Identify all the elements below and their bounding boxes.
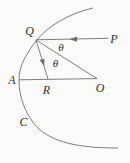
point-label-A: A xyxy=(8,74,15,86)
diagram-geometry xyxy=(0,0,130,163)
angle-label-theta-lower: θ xyxy=(53,58,58,69)
line-Q-to-O xyxy=(36,40,97,79)
incident-ray-arrowhead xyxy=(70,37,78,42)
reflected-ray-arrowhead xyxy=(40,59,45,67)
mirror-reflection-diagram: Q P A R O C θ θ xyxy=(0,0,130,163)
point-label-O: O xyxy=(96,82,105,94)
point-label-Q: Q xyxy=(25,25,34,37)
point-label-P: P xyxy=(110,33,117,45)
point-label-C: C xyxy=(19,116,27,128)
optical-axis-line xyxy=(19,79,97,80)
point-label-R: R xyxy=(43,84,50,96)
angle-label-theta-upper: θ xyxy=(58,42,63,53)
